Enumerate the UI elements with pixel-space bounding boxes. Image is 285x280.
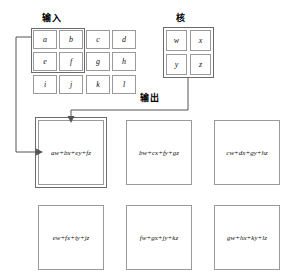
kernel-label: 核: [176, 13, 186, 24]
input-cell: i: [33, 75, 57, 94]
output-cell: ew+fx+iy+jz: [38, 205, 104, 270]
input-cell: h: [112, 52, 136, 71]
input-grid: a b c d e f g h i j k l: [33, 30, 137, 94]
kernel-cell: z: [190, 54, 211, 75]
output-cell: aw+bx+ey+fz: [38, 120, 104, 185]
output-cell: cw+dx+gy+hz: [214, 120, 280, 185]
input-cell: l: [112, 75, 136, 94]
kernel-grid: w x y z: [166, 30, 212, 76]
kernel-cell: w: [166, 30, 187, 51]
kernel-cell: y: [166, 54, 187, 75]
output-cell: bw+cx+fy+gz: [126, 120, 192, 185]
input-label: 输入: [42, 13, 61, 24]
input-cell: k: [86, 75, 110, 94]
input-cell: d: [112, 30, 136, 49]
output-label: 输出: [140, 93, 159, 104]
output-grid: aw+bx+ey+fz bw+cx+fy+gz cw+dx+gy+hz ew+f…: [38, 120, 278, 270]
input-cell: g: [86, 52, 110, 71]
input-cell: j: [59, 75, 83, 94]
convolution-diagram: 输入 核 输出 a b c d e f g h i j k l w x y z …: [0, 0, 285, 280]
kernel-cell: x: [190, 30, 211, 51]
input-cell: f: [59, 52, 83, 71]
input-cell: e: [33, 52, 57, 71]
input-cell: a: [33, 30, 57, 49]
output-cell: gw+hx+ky+lz: [214, 205, 280, 270]
output-cell: fw+gx+jy+kz: [126, 205, 192, 270]
input-cell: c: [86, 30, 110, 49]
input-cell: b: [59, 30, 83, 49]
